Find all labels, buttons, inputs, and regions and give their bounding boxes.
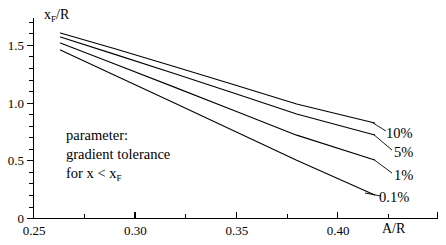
curves-layer (0, 0, 446, 245)
curve-leader-line (373, 159, 392, 173)
curve-10 (60, 33, 374, 123)
curve-leader-line (373, 123, 386, 131)
chart-figure: 0 0.5 1.0 1.5 0.25 0.30 0.35 0.40 xF/R A… (0, 0, 446, 245)
curve-5 (60, 37, 374, 135)
curve-1 (60, 43, 374, 160)
curve-label-10pct: 10% (386, 126, 413, 141)
curve-label-0p1pct: 0.1% (379, 190, 409, 205)
curve-label-5pct: 5% (394, 145, 413, 160)
curve-label-1pct: 1% (394, 168, 413, 183)
